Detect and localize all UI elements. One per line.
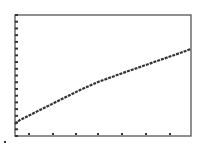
- y-tick: [15, 68, 18, 70]
- x-tick: [97, 133, 99, 135]
- x-axis-ticks: [28, 133, 171, 135]
- cursor-dot: [4, 141, 6, 143]
- x-tick: [52, 133, 54, 135]
- x-tick: [75, 133, 77, 135]
- y-tick: [15, 41, 18, 43]
- y-tick: [15, 34, 18, 36]
- y-tick: [15, 88, 18, 90]
- y-tick: [15, 108, 18, 110]
- y-tick: [15, 27, 18, 29]
- y-tick: [15, 135, 18, 137]
- y-tick: [15, 75, 18, 77]
- y-tick: [15, 61, 18, 63]
- y-tick: [15, 14, 18, 16]
- y-tick: [15, 95, 18, 97]
- function-curve: [15, 49, 191, 124]
- y-tick: [15, 115, 18, 117]
- y-tick: [15, 54, 18, 56]
- x-tick: [28, 133, 30, 135]
- y-tick: [15, 48, 18, 50]
- graph-screen: [0, 0, 198, 145]
- x-tick: [145, 133, 147, 135]
- frame-border: [15, 15, 191, 136]
- y-tick: [15, 128, 18, 130]
- y-tick: [15, 101, 18, 103]
- y-tick: [15, 21, 18, 23]
- plot-frame: [15, 15, 191, 136]
- x-tick: [169, 133, 171, 135]
- y-tick: [15, 81, 18, 83]
- x-tick: [121, 133, 123, 135]
